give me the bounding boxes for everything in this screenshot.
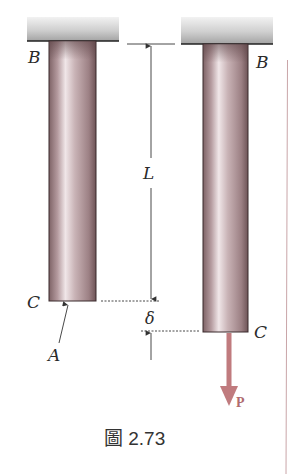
- label-right-top-B: B: [255, 52, 269, 72]
- right-support: [181, 17, 273, 44]
- load-arrow-shaft: [227, 333, 232, 388]
- page-border-line: [286, 60, 288, 474]
- left-bar-top-shade: [50, 42, 96, 60]
- right-bar-top-shade: [204, 45, 248, 63]
- figure-canvas: B B L C δ C A P 圖 2.73: [0, 0, 293, 474]
- area-leader-line: [59, 305, 68, 343]
- label-right-bottom-C: C: [254, 322, 267, 342]
- label-elongation-delta: δ: [145, 309, 155, 328]
- label-length-L: L: [142, 163, 154, 183]
- unloaded-bar-assembly: [27, 17, 119, 301]
- label-left-bottom-C: C: [27, 292, 40, 312]
- figure-caption: 圖 2.73: [104, 428, 165, 449]
- left-support: [27, 17, 119, 41]
- label-load-P: P: [236, 395, 245, 410]
- right-bar: [203, 44, 248, 332]
- label-left-top-B: B: [27, 47, 41, 67]
- label-area-A: A: [46, 345, 60, 365]
- left-bar: [49, 41, 96, 301]
